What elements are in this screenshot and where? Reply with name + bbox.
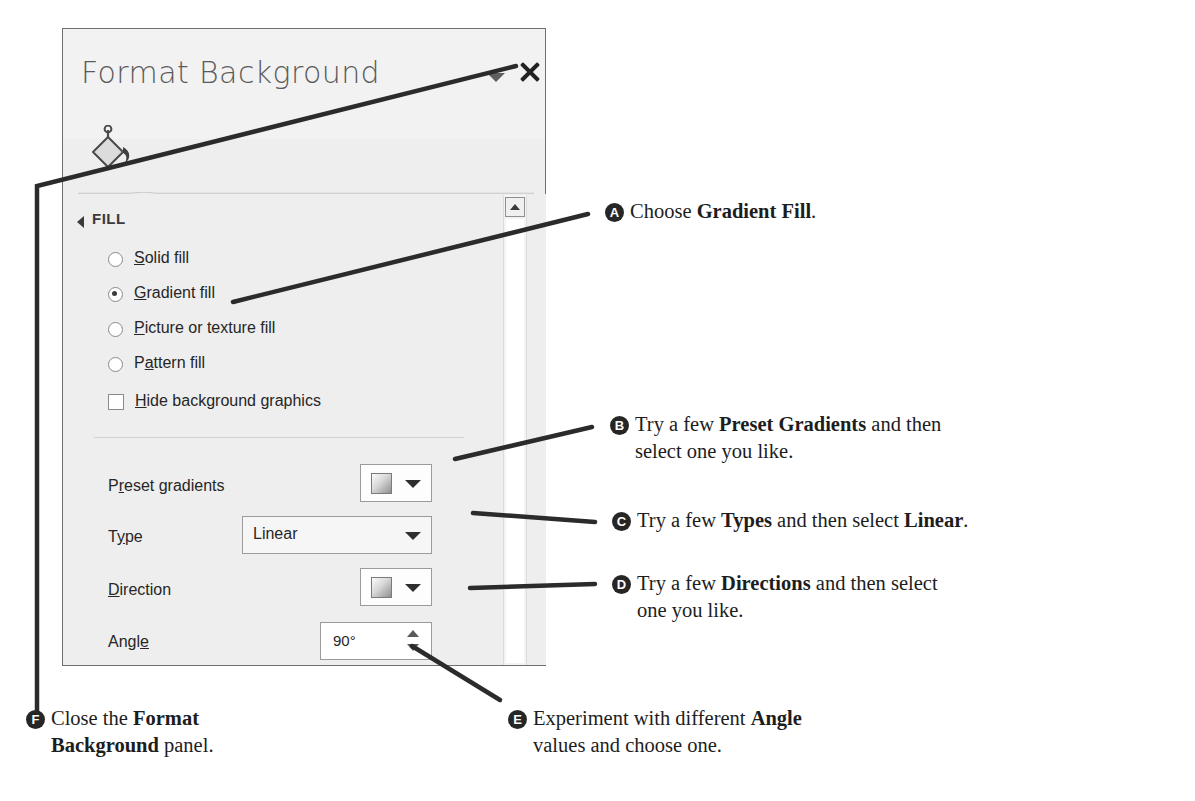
paint-bucket-icon[interactable]	[85, 125, 139, 175]
label-rest: radient fill	[146, 284, 214, 301]
label-rest: irection	[120, 581, 172, 598]
direction-dropdown[interactable]	[360, 568, 432, 606]
callout-b-line2: select one you like.	[635, 438, 1170, 465]
callout-c-text: Try a few Types and then select Linear.	[637, 509, 968, 531]
label-pre: P	[134, 354, 145, 371]
angle-stepper[interactable]: 90°	[320, 622, 432, 660]
callout-d-line2: one you like.	[637, 597, 1172, 624]
type-selected-value: Linear	[253, 525, 297, 543]
callout-f-text: Close the Format	[51, 707, 199, 729]
callout-e-line2: values and choose one.	[533, 732, 1068, 759]
gradient-swatch-icon	[371, 577, 392, 598]
label-rest: eset gradients	[124, 477, 225, 494]
checkbox-label-hide-background-graphics: Hide background graphics	[135, 392, 321, 410]
callout-c-line1-b: Types	[721, 509, 772, 531]
label-rest: ide background graphics	[147, 392, 321, 409]
label-pre: Angl	[108, 633, 140, 650]
chevron-down-icon[interactable]	[405, 480, 421, 488]
callout-d-text: Try a few Directions and then select	[637, 572, 938, 594]
callout-badge-f: F	[26, 710, 45, 729]
accel-key: e	[140, 633, 149, 650]
callout-d-line1-c: and then select	[811, 572, 938, 594]
callout-f-line2-c: panel.	[159, 734, 214, 756]
page-canvas: Format Background FILL Solid fill	[0, 0, 1195, 801]
accel-key: H	[135, 392, 147, 409]
callout-f-line2-b: Background	[51, 734, 159, 756]
chevron-down-icon[interactable]	[405, 584, 421, 592]
callout-b: BTry a few Preset Gradients and then sel…	[610, 411, 1170, 465]
chevron-down-icon[interactable]	[487, 73, 505, 82]
callout-a-line1-c: .	[811, 200, 816, 222]
type-combo-box[interactable]: Linear	[242, 516, 432, 554]
callout-b-line1-b: Preset Gradients	[719, 413, 866, 435]
panel-body: FILL Solid fill Gradient fill Picture or…	[64, 194, 546, 665]
callout-badge-b: B	[610, 416, 629, 435]
label-rest: olid fill	[145, 249, 189, 266]
radio-label-pattern-fill: Pattern fill	[134, 354, 205, 372]
stepper-up-icon[interactable]	[407, 630, 419, 637]
scroll-up-icon[interactable]	[505, 197, 525, 217]
radio-pattern-fill[interactable]	[108, 357, 123, 372]
radio-gradient-fill[interactable]	[108, 287, 123, 302]
angle-value: 90°	[333, 632, 356, 649]
close-icon[interactable]	[515, 57, 545, 87]
section-divider	[94, 437, 464, 438]
callout-a-text: Choose Gradient Fill.	[630, 200, 816, 222]
callout-f-line1-b: Format	[133, 707, 199, 729]
callout-c: CTry a few Types and then select Linear.	[612, 507, 1172, 534]
label-direction: Direction	[108, 581, 171, 599]
callout-b-text: Try a few Preset Gradients and then	[635, 413, 941, 435]
callout-a-line1-a: Choose	[630, 200, 697, 222]
callout-c-line1-a: Try a few	[637, 509, 721, 531]
panel-header: Format Background	[63, 29, 545, 139]
callout-d: DTry a few Directions and then select on…	[612, 570, 1172, 624]
collapse-triangle-icon[interactable]	[77, 216, 84, 228]
chevron-down-icon[interactable]	[405, 532, 421, 540]
stepper-down-icon[interactable]	[407, 644, 419, 651]
label-rest: ttern fill	[154, 354, 206, 371]
radio-label-picture-fill: Picture or texture fill	[134, 319, 275, 337]
accel-key: G	[134, 284, 146, 301]
callout-a: AChoose Gradient Fill.	[605, 198, 1125, 225]
callout-c-line1-d: Linear	[904, 509, 963, 531]
callout-badge-c: C	[612, 512, 631, 531]
label-preset-gradients: Preset gradients	[108, 477, 225, 495]
callout-badge-a: A	[605, 203, 624, 222]
label-rest: pe	[125, 528, 143, 545]
callout-d-line1-b: Directions	[721, 572, 811, 594]
radio-solid-fill[interactable]	[108, 252, 123, 267]
accel-key: a	[145, 354, 154, 371]
accel-key: D	[108, 581, 120, 598]
callout-c-line1-e: .	[963, 509, 968, 531]
callout-e-line1-b: Angle	[751, 707, 802, 729]
radio-label-gradient-fill: Gradient fill	[134, 284, 215, 302]
section-header-fill[interactable]: FILL	[92, 210, 126, 227]
label-rest: icture or texture fill	[145, 319, 276, 336]
callout-e: EExperiment with different Angle values …	[508, 705, 1068, 759]
callout-f: FClose the Format Background panel.	[26, 705, 456, 759]
callout-badge-e: E	[508, 710, 527, 729]
preset-gradients-dropdown[interactable]	[360, 464, 432, 502]
checkbox-hide-background-graphics[interactable]	[108, 394, 124, 410]
label-angle: Angle	[108, 633, 149, 651]
accel-key: y	[117, 528, 125, 545]
callout-e-line1-a: Experiment with different	[533, 707, 751, 729]
label-pre: P	[108, 477, 119, 494]
callout-badge-d: D	[612, 575, 631, 594]
callout-e-text: Experiment with different Angle	[533, 707, 802, 729]
radio-label-solid-fill: Solid fill	[134, 249, 189, 267]
callout-b-line1-a: Try a few	[635, 413, 719, 435]
callout-f-line2: Background panel.	[51, 732, 456, 759]
callout-b-line1-c: and then	[866, 413, 941, 435]
callout-a-line1-b: Gradient Fill	[697, 200, 811, 222]
label-pre: T	[108, 528, 117, 545]
format-background-panel: Format Background FILL Solid fill	[62, 28, 546, 666]
radio-picture-fill[interactable]	[108, 322, 123, 337]
scrollbar-thumb[interactable]	[506, 219, 524, 663]
accel-key: P	[134, 319, 145, 336]
accel-key: S	[134, 249, 145, 266]
callout-d-line1-a: Try a few	[637, 572, 721, 594]
callout-c-line1-c: and then select	[772, 509, 904, 531]
label-type: Type	[108, 528, 143, 546]
gradient-swatch-icon	[371, 473, 392, 494]
